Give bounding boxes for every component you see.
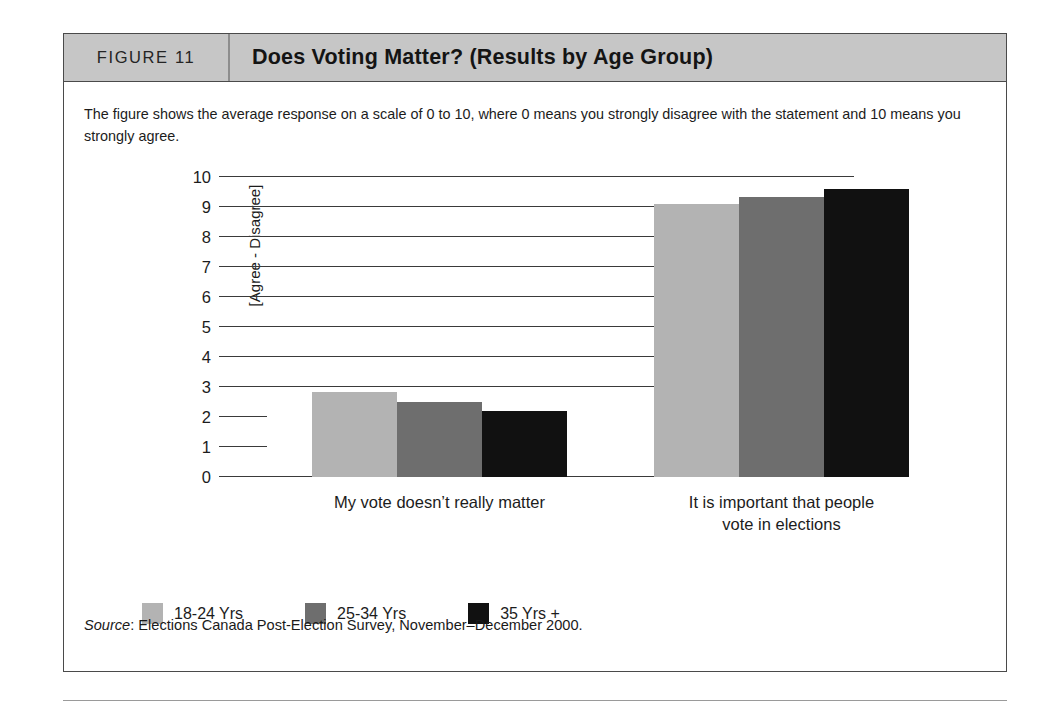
bar (739, 197, 824, 478)
bar (824, 189, 909, 477)
page-rule (63, 700, 1007, 701)
figure-note: The figure shows the average response on… (84, 104, 964, 147)
y-axis-tick-label: 6 (181, 288, 211, 307)
bar (654, 204, 739, 477)
y-axis-tick-label: 3 (181, 378, 211, 397)
category-label-line: vote in elections (617, 513, 947, 535)
category-label-line: It is important that people (617, 491, 947, 513)
bar (397, 402, 482, 477)
y-axis-tick-label: 4 (181, 348, 211, 367)
figure-body: The figure shows the average response on… (64, 82, 1006, 671)
source-label: Source (84, 617, 130, 633)
figure-header: FIGURE 11 Does Voting Matter? (Results b… (64, 34, 1006, 82)
y-axis-tick-label: 0 (181, 468, 211, 487)
category-labels: My vote doesn’t really matterIt is impor… (219, 483, 854, 543)
y-axis-tick-label: 9 (181, 198, 211, 217)
bar (482, 411, 567, 477)
chart-area: [Agree - Disagree] 012345678910 My vote … (64, 177, 1006, 507)
y-axis-tick-label: 8 (181, 228, 211, 247)
figure-frame: FIGURE 11 Does Voting Matter? (Results b… (63, 33, 1007, 672)
y-axis-tick-label: 2 (181, 408, 211, 427)
category-label: It is important that peoplevote in elect… (617, 491, 947, 536)
y-axis-tick-label: 7 (181, 258, 211, 277)
bar (312, 392, 397, 478)
source-note: Source: Elections Canada Post-Election S… (84, 617, 583, 633)
figure-number: FIGURE 11 (64, 34, 230, 81)
y-axis-tick-label: 1 (181, 438, 211, 457)
y-axis-tick-label: 10 (181, 168, 211, 187)
figure-title: Does Voting Matter? (Results by Age Grou… (230, 34, 1006, 81)
bars-layer (219, 177, 854, 477)
plot-region: 012345678910 (219, 177, 854, 477)
category-label-line: My vote doesn’t really matter (275, 491, 605, 513)
source-text: Elections Canada Post-Election Survey, N… (134, 617, 582, 633)
category-label: My vote doesn’t really matter (275, 491, 605, 513)
y-axis-tick-label: 5 (181, 318, 211, 337)
